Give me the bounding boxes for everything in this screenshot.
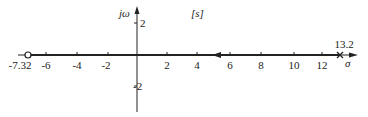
locus-direction-arrow-icon bbox=[212, 52, 221, 58]
x-tick-label: -4 bbox=[72, 59, 82, 71]
y-tick-label: -2 bbox=[133, 80, 142, 92]
x-tick-label: 10 bbox=[289, 59, 301, 71]
imag-axis-label: jω bbox=[117, 7, 130, 19]
x-tick-label: -2 bbox=[101, 59, 110, 71]
plane-label: [s] bbox=[191, 7, 204, 19]
x-tick-label: 12 bbox=[317, 59, 328, 71]
s-plane-plot: -6 -4 -2 2 4 6 8 10 12 2 -2 -7.32 13.2 j… bbox=[0, 0, 368, 117]
x-tick-label: -6 bbox=[41, 59, 51, 71]
pole-label: 13.2 bbox=[334, 38, 353, 50]
imag-axis-arrow-icon bbox=[135, 6, 140, 14]
root-locus-diagram: -6 -4 -2 2 4 6 8 10 12 2 -2 -7.32 13.2 j… bbox=[0, 0, 368, 117]
x-tick-label: 8 bbox=[258, 59, 264, 71]
y-tick-label: 2 bbox=[140, 17, 146, 29]
zero-label: -7.32 bbox=[9, 59, 32, 71]
real-axis-label: σ bbox=[345, 57, 351, 69]
x-tick-label: 2 bbox=[164, 59, 170, 71]
zero-marker-icon bbox=[25, 52, 31, 58]
x-tick-label: 4 bbox=[194, 59, 200, 71]
x-tick-label: 6 bbox=[227, 59, 233, 71]
